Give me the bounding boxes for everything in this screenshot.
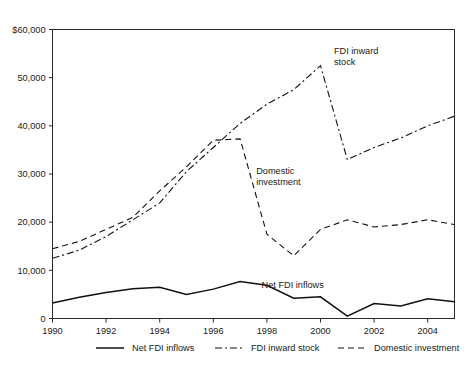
legend-label: Net FDI inflows — [132, 343, 195, 353]
legend-label: FDI inward stock — [251, 343, 320, 353]
annotation-label: investment — [256, 177, 301, 187]
x-tick-label: 1992 — [96, 326, 116, 336]
x-tick-label: 2000 — [310, 326, 330, 336]
fdi-line-chart: 010,00020,00030,00040,00050,000$60,000 1… — [0, 0, 469, 373]
chart-annotations: FDI inwardstockDomesticinvestmentNet FDI… — [256, 46, 378, 290]
annotation-label: stock — [334, 57, 356, 67]
series-line-domestic-investment — [53, 139, 455, 256]
y-axis: 010,00020,00030,00040,00050,000$60,000 — [12, 25, 52, 324]
y-tick-label: 40,000 — [17, 121, 45, 131]
y-tick-label: 20,000 — [17, 217, 45, 227]
plot-area-border — [53, 30, 455, 319]
x-tick-label: 1996 — [203, 326, 223, 336]
annotation-label: Domestic — [256, 166, 295, 176]
plot-frame — [53, 30, 455, 319]
x-tick-label: 2002 — [364, 326, 384, 336]
chart-container: 010,00020,00030,00040,00050,000$60,000 1… — [0, 0, 469, 373]
legend-label: Domestic investment — [374, 343, 460, 353]
annotation-label: FDI inward — [334, 46, 378, 56]
y-tick-label: 50,000 — [17, 73, 45, 83]
y-tick-label: 30,000 — [17, 169, 45, 179]
series-line-net-fdi-inflows — [53, 281, 455, 316]
y-tick-label: $60,000 — [12, 25, 45, 35]
y-tick-label: 0 — [40, 314, 45, 324]
data-series-group — [53, 66, 455, 316]
x-tick-label: 1990 — [42, 326, 62, 336]
annotation-label: Net FDI inflows — [262, 280, 325, 290]
x-tick-label: 2004 — [417, 326, 437, 336]
y-tick-label: 10,000 — [17, 266, 45, 276]
series-line-fdi-inward-stock — [53, 66, 455, 259]
x-tick-label: 1998 — [257, 326, 277, 336]
x-axis: 19901992199419961998200020022004 — [42, 319, 438, 336]
chart-legend: Net FDI inflowsFDI inward stockDomestic … — [96, 343, 460, 353]
x-tick-label: 1994 — [149, 326, 169, 336]
